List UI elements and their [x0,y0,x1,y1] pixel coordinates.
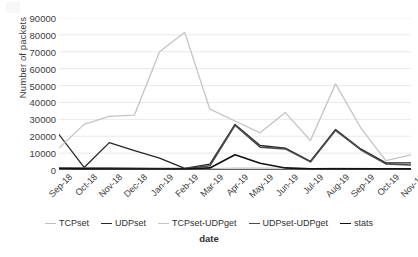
x-axis-tick-label: Aug-19 [323,172,350,199]
x-axis-tick-label: Jan-19 [149,172,175,198]
series-lines [59,32,411,169]
x-axis-tick-label: Nov-18 [97,172,124,199]
series-line-udpset-udpget [59,125,411,168]
legend-label: TCPset [59,218,89,228]
chart-legend: TCPsetUDPsetTCPset-UDPgetUDPset-UDPgetst… [0,218,418,228]
y-axis-tick-label: 70000 [14,46,56,57]
legend-swatch-icon [340,223,351,224]
x-axis-tick-label: Oct-19 [375,172,401,198]
y-axis-tick-label: 10000 [14,148,56,159]
x-axis-tick-label: May-19 [247,172,275,200]
x-axis-tick-label: Sep-18 [47,172,74,199]
plot-area [59,18,411,170]
x-axis-tick-label: Mar-19 [198,172,225,199]
series-line-udpset [59,124,411,168]
y-axis-tick-label: 60000 [14,63,56,74]
y-axis-tick-label: 90000 [14,13,56,24]
gridlines [59,18,411,153]
x-axis-tick-label: Feb-19 [173,172,200,199]
legend-swatch-icon [158,223,169,224]
legend-item-udpset-udpget[interactable]: UDPset-UDPget [249,218,329,228]
y-axis-tick-label: 30000 [14,114,56,125]
y-axis-tick-label: 80000 [14,29,56,40]
x-axis-tick-labels: Sep-18Oct-18Nov-18Dec-18Jan-19Feb-19Mar-… [59,172,411,212]
plot-svg [59,18,411,170]
x-axis-tick-label: Nov-19 [399,172,418,199]
x-axis-tick-label: Dec-18 [122,172,149,199]
legend-item-tcpset-udpget[interactable]: TCPset-UDPget [158,218,237,228]
x-axis-tick-label: Jul-19 [302,172,326,196]
legend-label: stats [354,218,373,228]
x-axis-tick-label: Jun-19 [274,172,300,198]
legend-item-stats[interactable]: stats [340,218,373,228]
legend-label: UDPset [115,218,146,228]
y-axis-tick-label: 0 [14,165,56,176]
y-axis-tick-labels: 0100002000030000400005000060000700008000… [14,18,56,170]
series-line-stats [59,155,411,169]
legend-item-udpset[interactable]: UDPset [101,218,146,228]
legend-label: UDPset-UDPget [263,218,329,228]
legend-item-tcpset[interactable]: TCPset [45,218,89,228]
x-axis-title: date [0,233,418,244]
x-axis-tick-label: Oct-18 [73,172,99,198]
legend-swatch-icon [45,223,56,224]
x-axis-tick-label: Sep-19 [349,172,376,199]
legend-label: TCPset-UDPget [172,218,237,228]
legend-swatch-icon [249,223,260,224]
x-axis-tick-label: Apr-19 [224,172,250,198]
legend-swatch-icon [101,223,112,224]
line-chart: Number of packets 0100002000030000400005… [0,0,418,257]
y-axis-tick-label: 50000 [14,80,56,91]
y-axis-tick-label: 40000 [14,97,56,108]
y-axis-tick-label: 20000 [14,131,56,142]
